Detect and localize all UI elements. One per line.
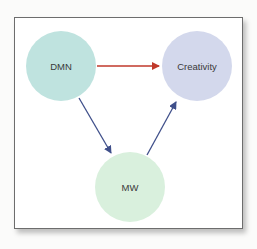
node-dmn-label: DMN <box>50 61 72 72</box>
node-dmn: DMN <box>26 31 96 101</box>
edge-mw-to-creativity <box>147 102 176 155</box>
edge-dmn-to-mw <box>79 98 111 153</box>
node-creativity-label: Creativity <box>177 61 217 72</box>
diagram-canvas: DMN Creativity MW <box>0 0 257 249</box>
node-creativity: Creativity <box>162 31 232 101</box>
node-mw-label: MW <box>122 182 139 193</box>
node-mw: MW <box>95 152 165 222</box>
